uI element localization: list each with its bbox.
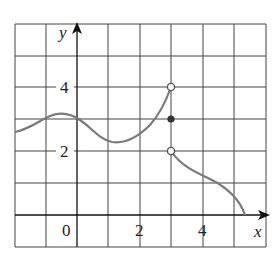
- grid: [15, 24, 266, 247]
- x-tick-4: 4: [198, 221, 207, 240]
- open-point-3-2: [167, 147, 174, 154]
- x-axis-label: x: [253, 222, 262, 241]
- left-branch-curve: [15, 87, 171, 142]
- y-axis-label: y: [57, 23, 67, 42]
- x-tick-2: 2: [135, 221, 144, 240]
- filled-point-3-3: [167, 115, 174, 122]
- x-tick-0: 0: [62, 221, 71, 240]
- function-graph: y 4 2 0 2 4 x: [0, 0, 280, 259]
- y-tick-4: 4: [60, 78, 69, 97]
- axes: [15, 30, 262, 247]
- open-point-3-4: [167, 83, 174, 90]
- y-tick-2: 2: [60, 142, 69, 161]
